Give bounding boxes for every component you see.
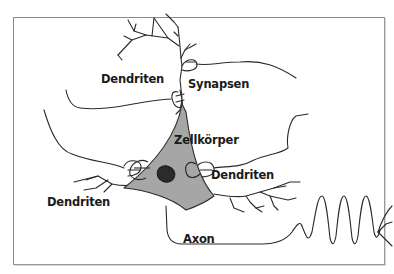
label-dendrites-right: Dendriten [211,168,274,182]
synapse-mid [66,90,184,114]
dendrites-lower-right [214,182,300,212]
cell-body [124,104,214,210]
dendrite-left-long [44,110,141,176]
synapse-top [182,60,296,78]
label-synapses: Synapsen [188,77,249,91]
label-dendrites-top: Dendriten [101,72,164,86]
label-dendrites-left: Dendriten [47,195,110,209]
label-axon: Axon [183,232,215,246]
axon-terminals [378,206,392,246]
label-cell-body: Zellkörper [174,133,239,147]
